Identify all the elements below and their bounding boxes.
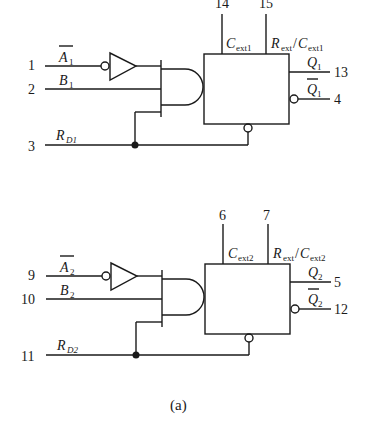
rext-cext2-label: C	[300, 246, 310, 261]
circuit-2: 9 10 11 6 7 5 12 A 2 B 2 R D2 C ext2 R e…	[21, 208, 348, 364]
rext-slash: /	[293, 36, 297, 51]
and-gate	[161, 69, 203, 105]
buffer-triangle	[111, 263, 137, 290]
monostable-box	[204, 54, 289, 124]
rext-cext2-subscript: ext2	[310, 253, 326, 263]
q1-bar-bubble	[290, 95, 298, 103]
figure-caption: (a)	[170, 397, 187, 414]
buffer-triangle	[110, 53, 136, 80]
a2-inversion-bubble	[102, 272, 110, 280]
a2-bar-label: A	[59, 260, 69, 275]
pin-2-label: 2	[28, 82, 35, 97]
pin-5-label: 5	[334, 275, 341, 290]
pin-1-label: 1	[28, 58, 35, 73]
a1-inversion-bubble	[101, 62, 109, 70]
cext1-subscript: ext1	[236, 43, 252, 53]
rext2-subscript: ext	[283, 253, 294, 263]
cext1-label: C	[226, 36, 236, 51]
pin-4-label: 4	[334, 92, 341, 107]
pin-15-label: 15	[259, 0, 273, 11]
pin-11-label: 11	[21, 349, 34, 364]
pin-12-label: 12	[334, 302, 348, 317]
q2-bar-label: Q	[308, 292, 318, 307]
dual-monostable-diagram: 1 2 3 14 15 13 4 A 1 B 1 R D1 C ext1 R e…	[0, 0, 369, 441]
rd1-subscript: D1	[65, 135, 77, 145]
q1-label: Q	[307, 55, 317, 70]
q2-bar-subscript: 2	[318, 299, 323, 309]
rext2-label: R	[272, 246, 282, 261]
pin-7-label: 7	[263, 208, 270, 223]
pin-3-label: 3	[28, 139, 35, 154]
rext-label: R	[270, 36, 280, 51]
rd1-inversion-bubble	[244, 124, 252, 132]
junction-dot	[132, 142, 139, 149]
b1-label: B	[59, 73, 68, 88]
pin-13-label: 13	[334, 65, 348, 80]
pin-9-label: 9	[28, 268, 35, 283]
pin-10-label: 10	[21, 292, 35, 307]
a1-bar-label: A	[58, 50, 68, 65]
rd1-label: R	[55, 128, 65, 143]
circuit-1: 1 2 3 14 15 13 4 A 1 B 1 R D1 C ext1 R e…	[28, 0, 348, 154]
monostable-box	[205, 264, 290, 334]
b2-label: B	[60, 283, 69, 298]
junction-dot	[133, 352, 140, 359]
rext-cext1-subscript: ext1	[308, 43, 324, 53]
q1-bar-subscript: 1	[317, 89, 322, 99]
rext2-slash: /	[295, 246, 299, 261]
cext2-label: C	[228, 246, 238, 261]
pin-6-label: 6	[219, 208, 226, 223]
q2-subscript: 2	[318, 272, 323, 282]
q2-label: Q	[308, 265, 318, 280]
rd2-subscript: D2	[66, 345, 78, 355]
q2-bar-bubble	[291, 305, 299, 313]
rd2-inversion-bubble	[245, 334, 253, 342]
q1-bar-label: Q	[307, 82, 317, 97]
q1-subscript: 1	[317, 62, 322, 72]
rext-cext1-label: C	[298, 36, 308, 51]
and-gate	[162, 279, 204, 315]
cext2-subscript: ext2	[238, 253, 254, 263]
pin-14-label: 14	[215, 0, 229, 11]
rext-subscript: ext	[281, 43, 292, 53]
rd2-label: R	[56, 338, 66, 353]
